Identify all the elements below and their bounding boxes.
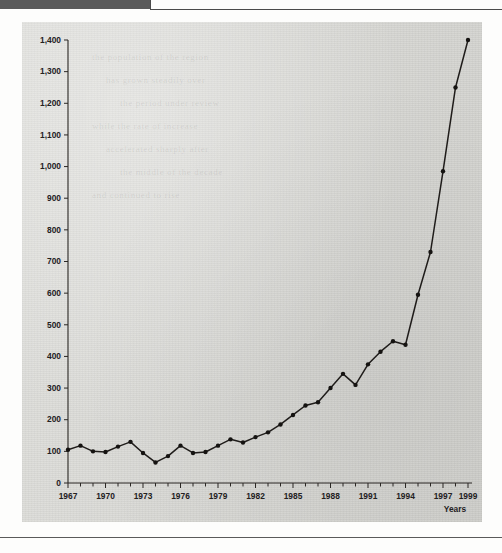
x-axis: 1967197019731976197919821985198819911994… [59,483,478,501]
x-tick-label: 1985 [284,491,303,501]
y-tick-label: 1,100 [40,130,61,140]
data-point [403,343,407,347]
data-series [66,38,470,465]
data-point [391,339,395,343]
data-point [428,250,432,254]
y-tick-label: 900 [47,193,61,203]
x-axis-title: Years [444,504,467,514]
data-point [78,443,82,447]
x-tick-label: 1999 [459,491,478,501]
y-tick-label: 400 [47,351,61,361]
data-point [328,386,332,390]
x-tick-label: 1973 [134,491,153,501]
x-tick-label: 1988 [321,491,340,501]
data-point [366,362,370,366]
x-tick-label: 1970 [96,491,115,501]
data-point [416,293,420,297]
data-point [153,460,157,464]
x-tick-label: 1967 [59,491,78,501]
data-point [341,372,345,376]
y-tick-label: 1,000 [40,161,61,171]
x-tick-label: 1979 [209,491,228,501]
data-point [241,440,245,444]
data-point [91,449,95,453]
data-point [141,451,145,455]
data-point [66,448,70,452]
data-point [253,435,257,439]
x-tick-label: 1997 [434,491,453,501]
y-tick-label: 1,400 [40,35,61,45]
line-chart: 01002003004005006007008009001,0001,1001,… [0,0,502,553]
data-point [278,422,282,426]
y-tick-label: 500 [47,320,61,330]
x-tick-label: 1982 [246,491,265,501]
data-point [466,38,470,42]
data-point [316,400,320,404]
data-point [166,454,170,458]
y-tick-label: 200 [47,414,61,424]
y-tick-label: 1,200 [40,98,61,108]
data-point [178,443,182,447]
data-point [303,403,307,407]
data-point [203,450,207,454]
data-point [228,437,232,441]
y-tick-label: 600 [47,288,61,298]
data-point [291,413,295,417]
x-tick-label: 1991 [359,491,378,501]
data-point [378,349,382,353]
y-tick-label: 300 [47,383,61,393]
data-point [441,169,445,173]
data-point [453,85,457,89]
y-tick-label: 100 [47,446,61,456]
data-point [353,383,357,387]
y-axis: 01002003004005006007008009001,0001,1001,… [40,35,68,488]
y-tick-label: 700 [47,256,61,266]
y-tick-label: 800 [47,225,61,235]
x-tick-label: 1976 [171,491,190,501]
data-point [266,430,270,434]
chart-svg: 01002003004005006007008009001,0001,1001,… [0,0,502,553]
y-tick-label: 1,300 [40,66,61,76]
y-tick-label: 0 [56,478,61,488]
data-point [216,443,220,447]
data-point [128,440,132,444]
data-point [116,444,120,448]
data-point [103,450,107,454]
data-point [191,451,195,455]
x-tick-label: 1994 [396,491,415,501]
